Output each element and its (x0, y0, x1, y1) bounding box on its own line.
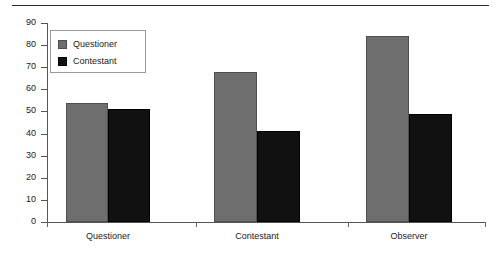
y-tick-label: 60 (0, 84, 36, 93)
y-tick-label: 20 (0, 173, 36, 182)
y-tick-mark (41, 156, 47, 157)
y-tick-mark (41, 111, 47, 112)
x-axis-label-contestant: Contestant (207, 231, 307, 242)
y-tick-mark (41, 89, 47, 90)
y-axis-line (47, 23, 48, 223)
bar-questioner-questioner (66, 103, 108, 222)
y-tick-label: 10 (0, 195, 36, 204)
legend-label-questioner: Questioner (73, 39, 117, 49)
y-tick-label: 50 (0, 106, 36, 115)
legend-swatch-icon-contestant (58, 57, 67, 66)
y-tick-label: 40 (0, 129, 36, 138)
chart-legend: Questioner Contestant (50, 30, 146, 73)
x-tick-mark (47, 222, 48, 227)
y-tick-label: 90 (0, 18, 36, 27)
legend-swatch-icon-questioner (58, 40, 67, 49)
x-tick-mark (485, 222, 486, 227)
x-tick-mark (196, 222, 197, 227)
bar-observer-contestant (409, 114, 452, 222)
x-axis-label-observer: Observer (359, 231, 459, 242)
y-tick-label: 70 (0, 62, 36, 71)
y-tick-label: 30 (0, 151, 36, 160)
bar-observer-questioner (366, 36, 409, 222)
bar-contestant-questioner (214, 72, 257, 222)
legend-item-contestant: Contestant (58, 53, 145, 69)
y-tick-mark (41, 134, 47, 135)
x-axis-line (47, 222, 485, 223)
bar-questioner-contestant (108, 109, 150, 222)
plot-area: 0102030405060708090 QuestionerContestant… (0, 0, 501, 255)
y-tick-mark (41, 45, 47, 46)
chart-figure: 0102030405060708090 QuestionerContestant… (0, 0, 501, 255)
bar-contestant-contestant (257, 131, 300, 222)
y-tick-mark (41, 67, 47, 68)
y-tick-label: 0 (0, 217, 36, 226)
y-tick-mark (41, 200, 47, 201)
legend-item-questioner: Questioner (58, 36, 145, 52)
y-tick-mark (41, 23, 47, 24)
y-tick-label: 80 (0, 40, 36, 49)
x-tick-mark (348, 222, 349, 227)
x-axis-label-questioner: Questioner (58, 231, 158, 242)
y-tick-mark (41, 178, 47, 179)
legend-label-contestant: Contestant (73, 56, 117, 66)
